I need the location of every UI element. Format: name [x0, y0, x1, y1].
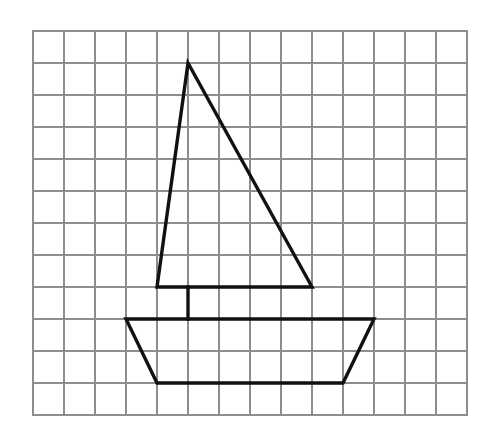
- sailboat-grid-figure: [0, 0, 498, 444]
- figure-root: [0, 0, 498, 444]
